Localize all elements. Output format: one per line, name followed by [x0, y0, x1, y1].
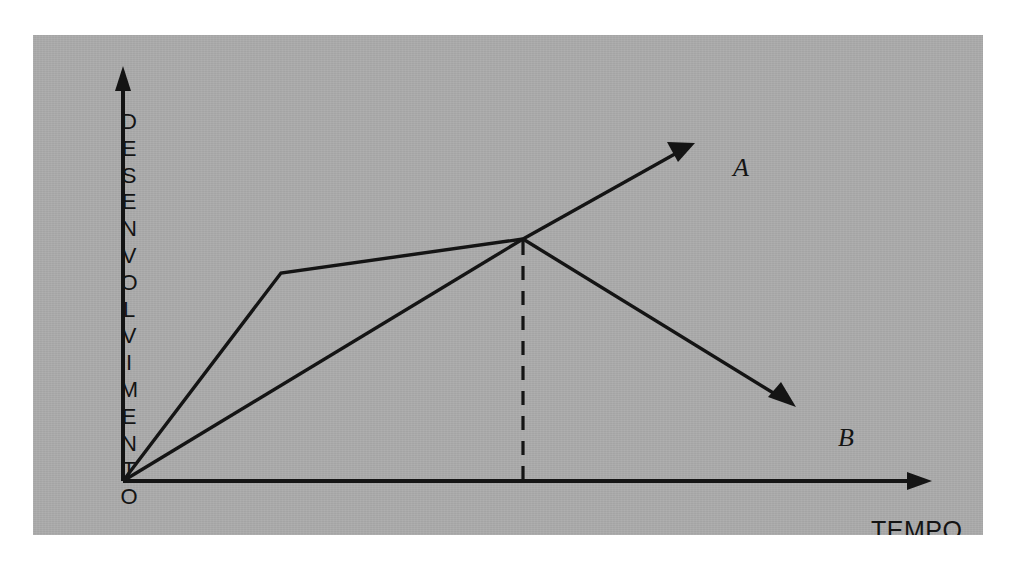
- y-axis-letter: D: [121, 111, 137, 138]
- y-axis-letter: O: [120, 486, 137, 513]
- x-axis-label: TEMPO: [871, 516, 962, 535]
- series-a-line: [523, 150, 682, 239]
- y-axis-arrowhead-icon: [115, 66, 131, 91]
- y-axis-label: D E S E N V O L V I M E N T O: [115, 111, 143, 513]
- y-axis-letter: S: [122, 165, 137, 192]
- y-axis-letter: E: [122, 406, 137, 433]
- chart-panel: D E S E N V O L V I M E N T O TEMPO A B: [33, 35, 983, 535]
- series-steady-riser-line: [123, 239, 523, 481]
- y-axis-letter: I: [126, 352, 132, 379]
- series-a-branch: [523, 142, 695, 239]
- series-b-arrowhead-icon: [768, 382, 796, 407]
- series-b-branch: [523, 239, 796, 407]
- series-b-line: [523, 239, 783, 399]
- y-axis-letter: V: [122, 245, 137, 272]
- y-axis-letter: O: [120, 272, 137, 299]
- series-b-label: B: [838, 423, 854, 453]
- y-axis-letter: E: [122, 191, 137, 218]
- series-a-label: A: [733, 153, 749, 183]
- figure-root: D E S E N V O L V I M E N T O TEMPO A B: [0, 0, 1014, 565]
- x-axis: [123, 472, 932, 490]
- x-axis-arrowhead-icon: [907, 472, 932, 490]
- y-axis-letter: N: [121, 218, 137, 245]
- y-axis-letter: N: [121, 433, 137, 460]
- y-axis-letter: M: [120, 379, 138, 406]
- chart-plot-area: [33, 35, 983, 535]
- y-axis-letter: V: [122, 325, 137, 352]
- series-a-arrowhead-icon: [667, 142, 695, 162]
- y-axis-letter: T: [122, 459, 135, 486]
- y-axis-letter: E: [122, 138, 137, 165]
- y-axis-letter: L: [123, 299, 135, 326]
